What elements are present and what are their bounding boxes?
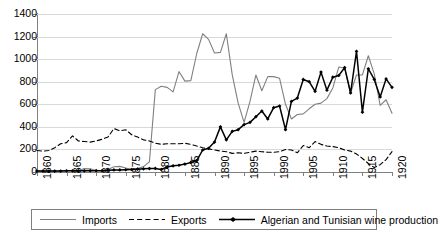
data-point-marker <box>35 169 39 173</box>
data-point-marker <box>47 169 51 173</box>
series-markers-2 <box>35 49 394 173</box>
data-point-marker <box>100 169 104 173</box>
data-point-marker <box>118 168 122 172</box>
data-point-marker <box>349 91 353 95</box>
data-point-marker <box>153 167 157 171</box>
chart-legend: Imports Exports Algerian and Tunisian wi… <box>31 209 377 230</box>
data-point-marker <box>177 163 181 167</box>
data-point-marker <box>301 78 305 82</box>
data-point-marker <box>183 162 187 166</box>
legend-swatch-imports <box>39 215 77 224</box>
data-point-marker <box>71 169 75 173</box>
legend-item-production: Algerian and Tunisian wine production <box>218 214 438 226</box>
legend-label-imports: Imports <box>82 214 117 226</box>
data-point-marker <box>361 110 365 114</box>
legend-label-production: Algerian and Tunisian wine production <box>261 214 438 226</box>
data-point-marker <box>355 49 359 53</box>
legend-item-exports: Exports <box>128 214 207 226</box>
legend-swatch-production <box>218 215 256 224</box>
series-line-2 <box>37 51 392 171</box>
legend-item-imports: Imports <box>39 214 117 226</box>
data-point-marker <box>59 169 63 173</box>
data-point-marker <box>41 169 45 173</box>
legend-swatch-exports <box>128 215 166 224</box>
data-point-marker <box>171 164 175 168</box>
series-line-1 <box>37 129 392 168</box>
data-point-marker <box>94 169 98 173</box>
series-line-0 <box>37 34 392 171</box>
data-point-marker <box>284 128 288 132</box>
data-point-marker <box>130 168 134 172</box>
data-point-marker <box>189 161 193 165</box>
legend-label-exports: Exports <box>171 214 207 226</box>
data-point-marker <box>53 169 57 173</box>
data-point-marker <box>148 167 152 171</box>
data-point-marker <box>278 104 282 108</box>
data-point-marker <box>112 168 116 172</box>
data-point-marker <box>319 70 323 74</box>
data-point-marker <box>65 169 69 173</box>
